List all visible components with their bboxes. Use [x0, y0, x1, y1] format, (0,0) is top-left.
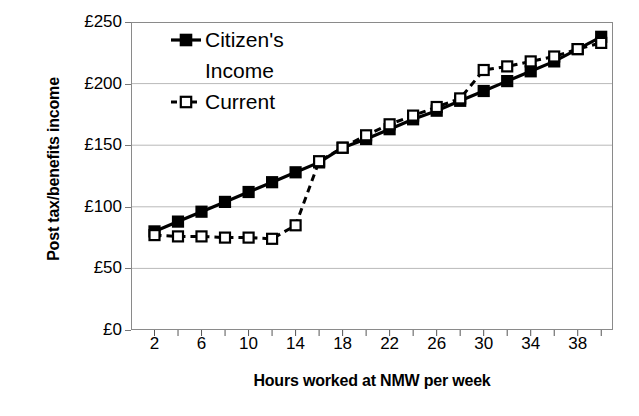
data-point-marker: [150, 230, 160, 240]
data-point-marker: [408, 111, 418, 121]
data-point-marker: [267, 234, 277, 244]
data-point-marker: [479, 86, 489, 96]
data-point-marker: [291, 220, 301, 230]
data-point-marker: [197, 231, 207, 241]
data-point-marker: [244, 233, 254, 243]
plot-area: Citizen'sIncomeCurrent: [131, 22, 613, 330]
data-point-marker: [173, 217, 183, 227]
data-point-marker: [244, 187, 254, 197]
legend-label-1-line2: Income: [205, 59, 274, 82]
chart-legend: Citizen'sIncomeCurrent: [171, 28, 284, 113]
data-point-marker: [361, 130, 371, 140]
chart-figure: Post tax/benefits income Hours worked at…: [0, 0, 639, 416]
data-point-marker: [573, 44, 583, 54]
data-point-marker: [432, 102, 442, 112]
data-point-marker: [596, 38, 606, 48]
data-point-marker: [220, 233, 230, 243]
data-point-marker: [526, 56, 536, 66]
data-point-marker: [502, 76, 512, 86]
data-point-marker: [314, 156, 324, 166]
data-point-marker: [291, 167, 301, 177]
data-point-marker: [526, 66, 536, 76]
legend-marker-2: [181, 97, 191, 107]
legend-label-2: Current: [205, 90, 275, 113]
data-point-marker: [385, 119, 395, 129]
legend-marker-1: [181, 35, 191, 45]
chart-canvas: Citizen'sIncomeCurrent: [131, 22, 613, 340]
data-point-marker: [479, 65, 489, 75]
data-point-marker: [549, 52, 559, 62]
legend-label-1: Citizen's: [205, 28, 284, 51]
data-point-marker: [220, 197, 230, 207]
data-point-marker: [338, 143, 348, 153]
data-point-marker: [455, 93, 465, 103]
data-point-marker: [267, 177, 277, 187]
data-point-marker: [502, 61, 512, 71]
data-point-marker: [173, 231, 183, 241]
data-point-marker: [197, 207, 207, 217]
